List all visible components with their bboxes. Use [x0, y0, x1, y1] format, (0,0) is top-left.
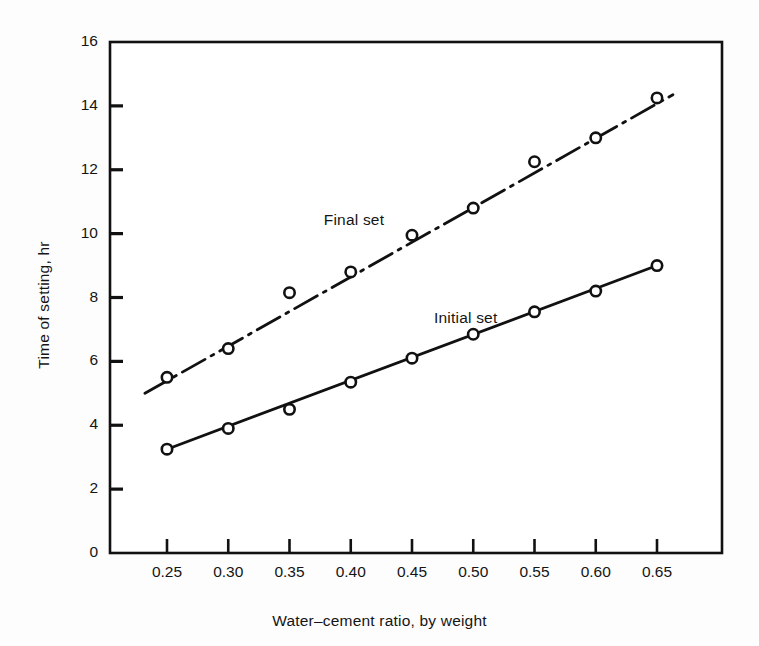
x-tick-label: 0.35: [260, 563, 320, 581]
chart-figure: Time of setting, hr Water–cement ratio, …: [0, 0, 759, 646]
y-tick-label: 4: [58, 415, 98, 433]
data-point-marker: [223, 343, 233, 353]
data-point-marker: [346, 267, 356, 277]
x-tick-label: 0.55: [505, 563, 565, 581]
y-tick-label: 0: [58, 543, 98, 561]
data-point-marker: [284, 288, 294, 298]
data-point-marker: [529, 157, 539, 167]
y-tick-label: 6: [58, 351, 98, 369]
y-axis-label-wrapper: Time of setting, hr: [14, 0, 48, 646]
y-tick-label: 14: [58, 96, 98, 114]
y-tick-label: 16: [58, 32, 98, 50]
y-tick-label: 12: [58, 160, 98, 178]
y-tick-label: 10: [58, 224, 98, 242]
data-point-marker: [652, 260, 662, 270]
plot-canvas: [0, 0, 759, 646]
y-tick-label: 2: [58, 479, 98, 497]
data-point-marker: [162, 444, 172, 454]
x-tick-label: 0.65: [627, 563, 687, 581]
series-label-final-set: Final set: [324, 211, 384, 229]
x-tick-label: 0.40: [321, 563, 381, 581]
data-point-marker: [407, 353, 417, 363]
y-axis-label: Time of setting, hr: [35, 205, 53, 405]
x-tick-label: 0.50: [443, 563, 503, 581]
data-point-marker: [162, 372, 172, 382]
data-point-marker: [468, 329, 478, 339]
data-point-marker: [284, 404, 294, 414]
data-point-marker: [591, 286, 601, 296]
x-tick-label: 0.60: [566, 563, 626, 581]
data-point-marker: [529, 307, 539, 317]
x-tick-label: 0.30: [198, 563, 258, 581]
data-point-marker: [591, 133, 601, 143]
series-label-initial-set: Initial set: [434, 309, 497, 327]
data-point-marker: [468, 203, 478, 213]
data-point-marker: [346, 377, 356, 387]
x-axis-label: Water–cement ratio, by weight: [0, 612, 759, 630]
x-tick-label: 0.25: [137, 563, 197, 581]
plot-frame: [110, 42, 722, 553]
data-point-marker: [223, 423, 233, 433]
data-point-marker: [407, 230, 417, 240]
x-tick-label: 0.45: [382, 563, 442, 581]
y-tick-label: 8: [58, 288, 98, 306]
data-point-marker: [652, 93, 662, 103]
